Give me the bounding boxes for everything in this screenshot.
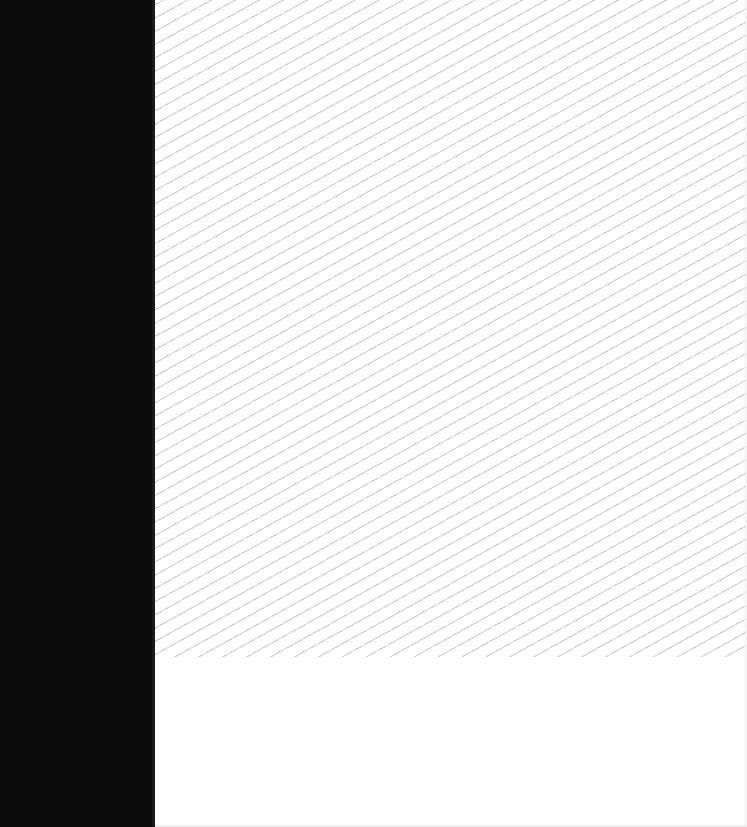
content-area <box>155 0 747 827</box>
page <box>0 0 747 827</box>
right-edge-shading <box>743 0 747 827</box>
dark-side-panel <box>0 0 155 827</box>
diagonal-stripe-pattern <box>155 0 747 657</box>
blank-white-region <box>155 657 747 827</box>
